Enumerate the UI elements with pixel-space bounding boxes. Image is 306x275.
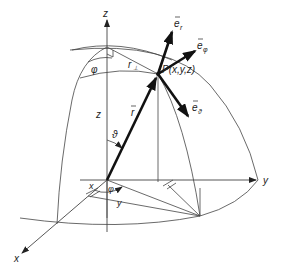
svg-text:φ: φ (203, 46, 208, 54)
y-coord-label: y (116, 198, 122, 208)
svg-text:r: r (131, 107, 135, 118)
point-p-label: P(x,y,z) (162, 64, 195, 75)
right-angle-mark (107, 50, 113, 57)
theta-label: ϑ (112, 129, 118, 140)
x-coord-label: x (88, 181, 94, 191)
y-axis-label: y (262, 175, 269, 186)
y-parallel-mark (163, 180, 176, 189)
z-height-label: z (95, 109, 101, 120)
x-axis (22, 180, 107, 253)
svg-text:r: r (128, 59, 132, 70)
z-axis-label: z (102, 8, 108, 19)
latitude-top-arc (72, 46, 172, 60)
r-vector-label: r (131, 106, 136, 118)
e-theta-label: e ϑ (192, 101, 203, 115)
phi-top-label: φ (91, 64, 98, 75)
e-r-label: e r (174, 17, 183, 31)
x-axis-label: x (13, 253, 20, 264)
spherical-coordinates-diagram: z y x P(x,y,z) e r e φ e ϑ r φ r ⊥ z ϑ φ… (0, 0, 306, 275)
theta-arc (107, 140, 122, 148)
equator-arc (20, 180, 258, 225)
y-coord-line (88, 196, 200, 216)
point-p (156, 72, 160, 76)
meridian-through-p (158, 74, 200, 216)
phi-bottom-label: φ (108, 184, 114, 194)
svg-text:⊥: ⊥ (133, 65, 138, 71)
sphere-arcs (20, 46, 258, 225)
e-phi-label: e φ (197, 39, 208, 54)
svg-text:r: r (180, 24, 183, 31)
svg-text:ϑ: ϑ (198, 108, 203, 115)
e-theta-vector (158, 74, 188, 116)
